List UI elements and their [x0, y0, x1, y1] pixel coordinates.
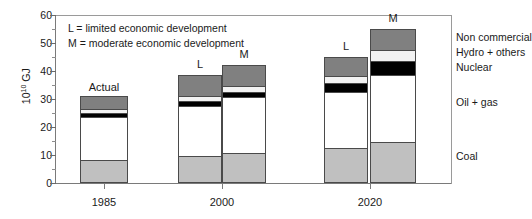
y-tick-mark-45	[52, 57, 56, 58]
y-tick-mark-0	[50, 183, 56, 184]
bar-segment-coal	[179, 156, 221, 182]
y-tick-label-10: 10	[22, 150, 52, 160]
y-tick-mark-60	[50, 15, 56, 16]
y-tick-mark-20	[50, 127, 56, 128]
bar-segment-oil-gas	[81, 117, 127, 160]
bar-segment-non-commercial	[371, 30, 415, 50]
y-tick-label-50: 50	[22, 38, 52, 48]
bar-2000-limited[interactable]	[178, 75, 222, 183]
bar-segment-coal	[81, 160, 127, 182]
x-tick-mark-1985	[104, 183, 105, 189]
x-axis-line	[55, 183, 451, 184]
plot-right-border	[451, 15, 452, 184]
bar-segment-non-commercial	[81, 97, 127, 109]
bar-segment-oil-gas	[179, 106, 221, 156]
bar-segment-non-commercial	[325, 58, 367, 76]
y-tick-mark-30	[50, 99, 56, 100]
y-tick-label-20: 20	[22, 122, 52, 132]
bar-segment-nuclear	[325, 83, 367, 91]
x-tick-mark-2000	[222, 183, 223, 189]
y-tick-mark-5	[52, 169, 56, 170]
x-tick-mark-2020	[370, 183, 371, 189]
y-tick-mark-40	[50, 71, 56, 72]
x-tick-label-1985: 1985	[74, 196, 134, 208]
y-tick-label-0: 0	[22, 178, 52, 188]
legend-item-hydro-others[interactable]: Hydro + others	[456, 46, 525, 58]
legend-item-non-commercial[interactable]: Non commercial	[456, 31, 532, 43]
bar-annotation-2000-moderate: M	[214, 48, 274, 60]
y-tick-mark-25	[52, 113, 56, 114]
bar-segment-non-commercial	[179, 76, 221, 96]
bar-segment-hydro-others	[325, 76, 367, 83]
bar-annotation-2020-limited: L	[316, 40, 376, 52]
y-tick-mark-35	[52, 85, 56, 86]
y-tick-mark-10	[50, 155, 56, 156]
bar-segment-hydro-others	[371, 50, 415, 61]
bar-2000-moderate[interactable]	[222, 65, 266, 183]
bar-segment-coal	[223, 153, 265, 182]
legend-item-coal[interactable]: Coal	[456, 150, 478, 162]
bar-annotation-1985: Actual	[74, 81, 134, 93]
x-tick-label-2000: 2000	[192, 196, 252, 208]
y-tick-mark-15	[52, 141, 56, 142]
y-tick-label-40: 40	[22, 66, 52, 76]
note-limited-development: L = limited economic development	[68, 22, 227, 35]
bar-1985-actual[interactable]	[80, 96, 128, 183]
y-axis-title-exponent: 10	[20, 85, 27, 93]
bar-segment-oil-gas	[223, 97, 265, 153]
bar-segment-coal	[371, 142, 415, 182]
y-tick-mark-55	[52, 29, 56, 30]
bar-2020-moderate[interactable]	[370, 29, 416, 183]
y-tick-label-30: 30	[22, 94, 52, 104]
bar-segment-oil-gas	[325, 92, 367, 148]
bar-annotation-2020-moderate: M	[363, 12, 423, 24]
legend-item-nuclear[interactable]: Nuclear	[456, 61, 492, 73]
bar-segment-nuclear	[371, 61, 415, 75]
bar-2020-limited[interactable]	[324, 57, 368, 183]
y-tick-mark-50	[50, 43, 56, 44]
legend-item-oil-gas[interactable]: Oil + gas	[456, 96, 498, 108]
y-tick-label-60: 60	[22, 10, 52, 20]
x-tick-label-2020: 2020	[340, 196, 400, 208]
bar-segment-oil-gas	[371, 75, 415, 142]
bar-segment-non-commercial	[223, 66, 265, 86]
bar-segment-coal	[325, 148, 367, 182]
